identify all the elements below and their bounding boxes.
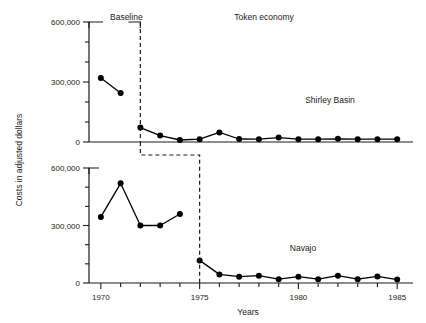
shirley-basin-data-point (197, 136, 203, 142)
navajo-data-point (177, 211, 183, 217)
chart-background (0, 0, 426, 323)
lower-y-tick-label: 0 (76, 279, 81, 288)
x-axis-label: Years (237, 307, 258, 317)
token-economy-label: Token economy (234, 12, 294, 22)
navajo-data-point (355, 276, 361, 282)
navajo-data-point (295, 274, 301, 280)
lower-y-tick-label: 300,000 (51, 222, 80, 231)
y-axis-label: Costs in adjusted dollars (14, 114, 24, 207)
multiple-baseline-line-chart: 0300,000600,000 0300,000600,000 19701975… (0, 0, 426, 323)
navajo-data-point (374, 273, 380, 279)
lower-y-tick-label: 600,000 (51, 164, 80, 173)
upper-y-tick-label: 600,000 (51, 18, 80, 27)
shirley-basin-data-point (355, 136, 361, 142)
navajo-data-point (157, 223, 163, 229)
shirley-basin-data-point (256, 136, 262, 142)
x-tick-label: 1980 (290, 293, 308, 302)
shirley-basin-label: Shirley Basin (305, 95, 355, 105)
shirley-basin-data-point (276, 135, 282, 141)
upper-y-tick-label: 300,000 (51, 78, 80, 87)
navajo-data-point (137, 223, 143, 229)
shirley-basin-data-point (98, 75, 104, 81)
navajo-data-point (276, 276, 282, 282)
shirley-basin-data-point (157, 133, 163, 139)
navajo-label: Navajo (290, 243, 317, 253)
navajo-data-point (394, 277, 400, 283)
navajo-data-point (236, 274, 242, 280)
shirley-basin-data-point (315, 136, 321, 142)
navajo-data-point (256, 273, 262, 279)
x-tick-label: 1970 (92, 293, 110, 302)
x-tick-label: 1975 (191, 293, 209, 302)
shirley-basin-data-point (118, 90, 124, 96)
shirley-basin-data-point (374, 136, 380, 142)
navajo-data-point (216, 271, 222, 277)
shirley-basin-data-point (295, 136, 301, 142)
chart-figure: 0300,000600,000 0300,000600,000 19701975… (0, 0, 426, 323)
navajo-data-point (335, 273, 341, 279)
shirley-basin-data-point (236, 136, 242, 142)
navajo-data-point (118, 180, 124, 186)
shirley-basin-data-point (394, 136, 400, 142)
baseline-bracket-label: Baseline (110, 12, 143, 22)
shirley-basin-data-point (177, 137, 183, 143)
shirley-basin-data-point (216, 129, 222, 135)
x-tick-label: 1985 (388, 293, 406, 302)
navajo-data-point (98, 214, 104, 220)
upper-y-tick-label: 0 (76, 138, 81, 147)
navajo-data-point (315, 276, 321, 282)
shirley-basin-data-point (335, 136, 341, 142)
